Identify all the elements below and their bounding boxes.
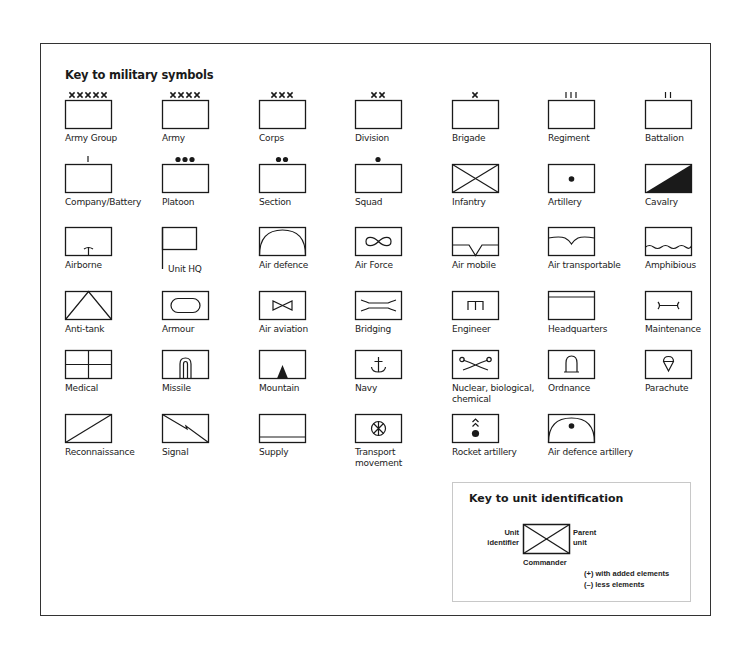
symbol-label: Company/Battery: [65, 197, 141, 208]
symbol-label: Battalion: [645, 133, 684, 144]
added-elements-note: (+) with added elements: [584, 569, 669, 579]
less-elements-note: (–) less elements: [584, 580, 644, 590]
symbol-label: Division: [355, 133, 389, 144]
symbol-missile: Missile: [162, 350, 252, 420]
symbol-reconnaissance: Reconnaissance: [65, 414, 155, 484]
symbol-navy: Navy: [355, 350, 445, 420]
symbol-section: Section: [259, 164, 349, 234]
symbol-label: Corps: [259, 133, 284, 144]
symbol-label: Supply: [259, 447, 288, 458]
symbol-squad: Squad: [355, 164, 445, 234]
symbol-label: Airborne: [65, 260, 102, 271]
symbol-corps: Corps: [259, 100, 349, 170]
symbol-brigade: Brigade: [452, 100, 542, 170]
symbol-air-defence-artillery: Air defence artillery: [548, 414, 638, 484]
symbol-air-mobile: Air mobile: [452, 227, 542, 297]
symbol-label: Ordnance: [548, 383, 590, 394]
symbol-label: Army Group: [65, 133, 117, 144]
unit-identifier-label: Unit identifier: [479, 528, 519, 548]
symbol-label: Cavalry: [645, 197, 678, 208]
symbol-label: Air Force: [355, 260, 393, 271]
symbol-air-force: Air Force: [355, 227, 445, 297]
key-title: Key to military symbols: [65, 68, 213, 82]
symbol-label: Parachute: [645, 383, 688, 394]
symbol-label: Air aviation: [259, 324, 308, 335]
symbol-label: Reconnaissance: [65, 447, 135, 458]
symbol-label: Brigade: [452, 133, 485, 144]
symbol-cavalry: Cavalry: [645, 164, 735, 234]
symbol-label: Artillery: [548, 197, 582, 208]
symbol-medical: Medical: [65, 350, 155, 420]
symbol-label: Section: [259, 197, 291, 208]
symbol-label: Navy: [355, 383, 377, 394]
symbol-ordnance: Ordnance: [548, 350, 638, 420]
symbol-air-defence: Air defence: [259, 227, 349, 297]
symbol-mountain: Mountain: [259, 350, 349, 420]
symbol-rocket-artillery: Rocket artillery: [452, 414, 542, 484]
symbol-label: Engineer: [452, 324, 490, 335]
symbol-signal: Signal: [162, 414, 252, 484]
symbol-label: Unit HQ: [168, 264, 202, 275]
symbol-label: Missile: [162, 383, 191, 394]
symbol-airborne: Airborne: [65, 227, 155, 297]
symbol-label: Squad: [355, 197, 382, 208]
symbol-label: Regiment: [548, 133, 590, 144]
symbol-label: Medical: [65, 383, 98, 394]
symbol-parachute: Parachute: [645, 350, 735, 420]
symbol-army-group: Army Group: [65, 100, 155, 170]
symbol-unit-hq: Unit HQ: [162, 227, 252, 297]
symbol-division: Division: [355, 100, 445, 170]
symbol-supply: Supply: [259, 414, 349, 484]
symbol-label: Signal: [162, 447, 188, 458]
unit-identification-panel: Key to unit identification Unit identifi…: [452, 482, 691, 602]
symbol-label: Air transportable: [548, 260, 621, 271]
commander-label: Commander: [523, 558, 567, 568]
symbol-label: Maintenance: [645, 324, 701, 335]
symbol-nbc: Nuclear, biological, chemical: [452, 350, 542, 420]
symbol-label: Amphibious: [645, 260, 696, 271]
symbol-label: Rocket artillery: [452, 447, 517, 458]
symbol-transport-movement: Transport movement: [355, 414, 445, 484]
symbol-label: Air defence artillery: [548, 447, 633, 458]
symbol-company: Company/Battery: [65, 164, 155, 234]
symbol-label: Platoon: [162, 197, 194, 208]
symbol-label: Air mobile: [452, 260, 496, 271]
symbol-label: Transport movement: [355, 447, 402, 469]
symbol-label: Nuclear, biological, chemical: [452, 383, 534, 405]
symbol-label: Army: [162, 133, 185, 144]
symbol-infantry: Infantry: [452, 164, 542, 234]
symbol-label: Anti-tank: [65, 324, 104, 335]
symbol-artillery: Artillery: [548, 164, 638, 234]
symbol-air-transportable: Air transportable: [548, 227, 638, 297]
symbol-platoon: Platoon: [162, 164, 252, 234]
symbol-amphibious: Amphibious: [645, 227, 735, 297]
symbol-label: Mountain: [259, 383, 299, 394]
symbol-label: Headquarters: [548, 324, 607, 335]
symbol-label: Bridging: [355, 324, 391, 335]
parent-unit-label: Parent unit: [573, 528, 596, 548]
symbol-label: Armour: [162, 324, 194, 335]
symbol-regiment: Regiment: [548, 100, 638, 170]
symbol-label: Air defence: [259, 260, 308, 271]
symbol-label: Infantry: [452, 197, 486, 208]
symbol-battalion: Battalion: [645, 100, 735, 170]
